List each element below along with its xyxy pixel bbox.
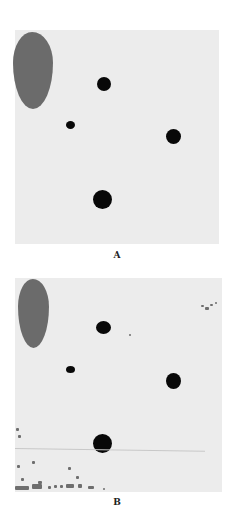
panel-b-speck <box>15 486 29 490</box>
panel-b-speck <box>38 481 42 484</box>
panel-b-speck <box>32 461 35 464</box>
panel-b-speck <box>32 484 42 489</box>
panel-b-speck <box>103 488 105 490</box>
panel-a-dot-bottom <box>93 190 112 209</box>
panel-b-speck <box>68 467 71 470</box>
panel-b-speck <box>129 334 131 336</box>
panel-b-speck <box>66 484 74 488</box>
panel-b-dot-top <box>96 321 111 334</box>
panel-b-speck <box>201 305 204 307</box>
panel-a-dot-small-left <box>66 121 75 129</box>
panel-b-speck <box>78 484 82 488</box>
panel-b-dot-right <box>166 373 181 389</box>
panel-b-speck <box>60 485 63 488</box>
panel-b-speck <box>21 478 24 481</box>
panel-a-label: A <box>107 250 127 260</box>
panel-b-speck <box>48 486 51 489</box>
panel-b-speck <box>215 302 217 304</box>
panel-b-speck <box>54 485 57 488</box>
panel-b-label: B <box>107 497 127 507</box>
panel-b-speck <box>17 465 20 468</box>
panel-b-speck <box>76 476 79 479</box>
panel-a-dot-top <box>97 77 111 91</box>
panel-b-dot-small-left <box>66 366 75 373</box>
panel-b-speck <box>205 307 209 310</box>
panel-b-speck <box>88 486 94 489</box>
panel-a-dot-right <box>166 129 181 144</box>
panel-b-speck <box>18 435 21 438</box>
panel-b-speck <box>210 304 213 306</box>
panel-b-speck <box>16 428 19 431</box>
